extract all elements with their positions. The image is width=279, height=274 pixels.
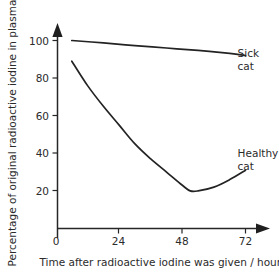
x-tick-label-0: 0 (53, 235, 60, 247)
chart-container: 100 80 60 40 20 0 24 48 72 Time after ra… (0, 0, 279, 274)
x-tick-label-48: 48 (175, 235, 188, 247)
series-label-healthy-cat-line2: cat (238, 160, 254, 172)
y-axis-arrow-icon (52, 23, 62, 37)
y-axis-title: Percentage of original radioactive iodin… (6, 0, 18, 266)
y-tick-label-100: 100 (29, 35, 49, 47)
x-tick-label-72: 72 (239, 235, 252, 247)
series-label-sick-cat-line1: Sick (238, 47, 260, 59)
series-line-sick-cat (72, 41, 246, 56)
line-chart: 100 80 60 40 20 0 24 48 72 Time after ra… (0, 0, 279, 274)
y-tick-label-40: 40 (36, 147, 49, 159)
x-tick-label-24: 24 (112, 235, 126, 247)
series-line-healthy-cat (72, 61, 246, 191)
y-tick-label-80: 80 (36, 72, 49, 84)
y-tick-label-60: 60 (36, 110, 49, 122)
series-label-healthy-cat-line1: Healthy (238, 147, 279, 159)
series-label-sick-cat-line2: cat (238, 60, 254, 72)
x-axis-arrow-icon (256, 223, 270, 233)
y-tick-label-20: 20 (36, 185, 49, 197)
x-axis-title: Time after radioactive iodine was given … (38, 256, 279, 268)
